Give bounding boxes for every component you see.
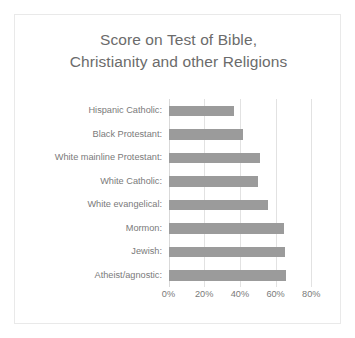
category-label-6: Jewish: bbox=[131, 240, 162, 264]
category-axis: Hispanic Catholic:Black Protestant:White… bbox=[15, 99, 166, 287]
bar-0[interactable] bbox=[169, 106, 235, 117]
bar-row[interactable] bbox=[169, 146, 329, 170]
x-tick-label-1: 20% bbox=[195, 289, 213, 299]
bar-row[interactable] bbox=[169, 123, 329, 147]
x-tick-label-2: 40% bbox=[231, 289, 249, 299]
category-label-0: Hispanic Catholic: bbox=[88, 99, 162, 123]
value-axis-ticks: 0%20%40%60%80% bbox=[169, 289, 344, 309]
bar-7[interactable] bbox=[169, 270, 287, 281]
category-label-2: White mainline Protestant: bbox=[55, 146, 162, 170]
bar-row[interactable] bbox=[169, 217, 329, 241]
bar-row[interactable] bbox=[169, 170, 329, 194]
bar-row[interactable] bbox=[169, 240, 329, 264]
chart-container: Score on Test of Bible, Christianity and… bbox=[14, 14, 341, 324]
bar-row[interactable] bbox=[169, 99, 329, 123]
bar-3[interactable] bbox=[169, 176, 258, 187]
category-label-5: Mormon: bbox=[126, 217, 162, 241]
bar-4[interactable] bbox=[169, 200, 269, 211]
bar-1[interactable] bbox=[169, 129, 244, 140]
bar-5[interactable] bbox=[169, 223, 284, 234]
bar-6[interactable] bbox=[169, 247, 285, 258]
x-tick-label-0: 0% bbox=[162, 289, 175, 299]
plot-wrapper: Hispanic Catholic:Black Protestant:White… bbox=[15, 15, 342, 325]
plot-area bbox=[169, 99, 329, 287]
category-label-4: White evangelical: bbox=[87, 193, 162, 217]
bar-row[interactable] bbox=[169, 193, 329, 217]
category-label-3: White Catholic: bbox=[100, 170, 162, 194]
category-label-1: Black Protestant: bbox=[93, 123, 162, 147]
x-tick-label-3: 60% bbox=[266, 289, 284, 299]
category-label-7: Atheist/agnostic: bbox=[95, 264, 162, 288]
bar-2[interactable] bbox=[169, 153, 260, 164]
bar-row[interactable] bbox=[169, 264, 329, 288]
x-tick-label-4: 80% bbox=[302, 289, 320, 299]
